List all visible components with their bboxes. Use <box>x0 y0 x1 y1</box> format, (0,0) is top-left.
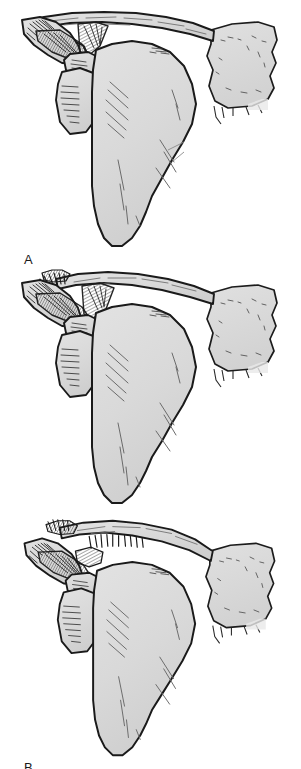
thorax-group-a <box>207 22 277 124</box>
panel-b: B <box>0 255 301 511</box>
scapula-body <box>93 562 195 755</box>
illustration-panel-a <box>0 0 301 256</box>
sternum-manubrium <box>207 285 277 371</box>
scapula-group-b <box>56 304 196 503</box>
scapula-group-c <box>58 562 195 755</box>
thorax-group-c <box>206 543 275 643</box>
panel-a: A <box>0 0 301 256</box>
sternum-manubrium <box>207 22 277 108</box>
sternum-manubrium <box>206 543 275 627</box>
thorax-group-b <box>207 285 277 387</box>
scapula-body <box>92 304 196 503</box>
illustration-panel-b <box>0 255 301 511</box>
scapula-group-a <box>56 41 196 246</box>
panel-c: C <box>0 508 301 764</box>
torn-ligament-frayed-end <box>42 270 70 282</box>
clavicle <box>56 272 214 304</box>
illustration-panel-c <box>0 508 301 764</box>
figure-root: A <box>0 0 301 769</box>
